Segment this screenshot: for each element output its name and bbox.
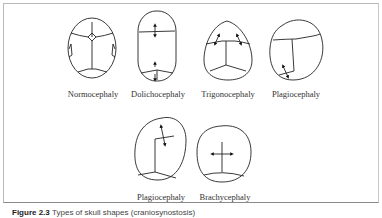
plagiocephaly-skull-icon	[270, 20, 323, 80]
label-dolichocephaly: Dolichocephaly	[131, 89, 185, 99]
caption-number: Figure 2.3	[12, 208, 50, 217]
label-trigonocephaly: Trigonocephaly	[201, 89, 255, 99]
figure-caption: Figure 2.3 Types of skull shapes (cranio…	[12, 208, 195, 217]
plagiocephaly-2-skull-icon	[135, 117, 186, 180]
brachycephaly-skull-icon	[197, 126, 251, 182]
normocephaly-skull-icon	[68, 18, 116, 78]
skull-diagrams	[0, 0, 382, 218]
label-plagiocephaly-2: Plagiocephaly	[137, 192, 185, 202]
label-brachycephaly: Brachycephaly	[200, 192, 251, 202]
label-normocephaly: Normocephaly	[68, 89, 119, 99]
dolichocephaly-skull-icon	[138, 11, 176, 81]
label-plagiocephaly: Plagiocephaly	[272, 89, 320, 99]
caption-text: Types of skull shapes (craniosynostosis)	[52, 208, 195, 217]
trigonocephaly-skull-icon	[204, 21, 252, 80]
